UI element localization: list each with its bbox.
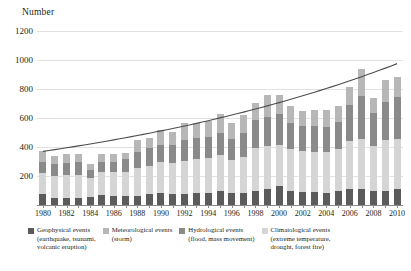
bar-segment	[98, 154, 105, 162]
x-tick	[220, 205, 221, 208]
x-tick	[338, 205, 339, 208]
legend-item-meteorological[interactable]: Meteorological events(storm)	[103, 226, 173, 243]
bar-segment	[146, 194, 153, 205]
bar-segment	[394, 139, 401, 189]
legend-label: Climatological events(extreme temperatur…	[271, 226, 331, 252]
x-tick-label: 1980	[35, 209, 51, 218]
bar-segment	[157, 130, 164, 145]
bar-segment	[252, 148, 259, 190]
bar-segment	[181, 161, 188, 194]
bar-segment	[346, 141, 353, 189]
bar-segment	[51, 156, 58, 165]
bar-segment	[276, 114, 283, 144]
bar-segment	[122, 159, 129, 172]
legend-item-hydrological[interactable]: Hydrological events(flood, mass movement…	[179, 226, 254, 243]
bar-segment	[122, 196, 129, 205]
bar	[75, 154, 82, 205]
x-tick	[196, 205, 197, 208]
bar-segment	[51, 176, 58, 198]
x-tick-label: 2010	[389, 209, 405, 218]
bar-segment	[169, 132, 176, 145]
bar-segment	[323, 127, 330, 152]
legend-label: Geophysical events(earthquake, tsunami,v…	[37, 226, 96, 252]
stacked-bar-chart: Number 12001000800600400200 198019821984…	[0, 0, 411, 271]
x-tick-label: 1986	[106, 209, 122, 218]
x-tick-label: 1994	[200, 209, 216, 218]
bar-segment	[240, 193, 247, 205]
bar-segment	[146, 148, 153, 165]
bar-segment	[75, 175, 82, 199]
x-tick-label: 1988	[129, 209, 145, 218]
legend-swatch-icon	[28, 228, 34, 234]
x-tick	[314, 205, 315, 208]
x-tick	[291, 205, 292, 208]
bar-segment	[87, 178, 94, 197]
x-tick	[43, 205, 44, 208]
bar-segment	[228, 139, 235, 160]
bar-segment	[134, 152, 141, 168]
x-tick	[161, 205, 162, 208]
bar-segment	[358, 69, 365, 95]
x-tick	[114, 205, 115, 208]
legend-item-geophysical[interactable]: Geophysical events(earthquake, tsunami,v…	[28, 226, 96, 252]
bar	[122, 153, 129, 205]
x-tick	[102, 205, 103, 208]
bar-segment	[346, 87, 353, 105]
bar-segment	[39, 194, 46, 205]
legend-label: Hydrological events(flood, mass movement…	[188, 226, 254, 243]
x-axis: 1980198219841986198819901992199419961998…	[37, 205, 403, 223]
x-tick	[67, 205, 68, 208]
y-tick-label: 800	[3, 84, 33, 94]
bar-segment	[299, 126, 306, 151]
legend-sublabel: volcanic eruption)	[37, 243, 96, 252]
bar-segment	[287, 123, 294, 149]
bar	[335, 106, 342, 205]
bar-segment	[134, 140, 141, 152]
bar-segment	[39, 162, 46, 173]
bar-segment	[205, 158, 212, 193]
bar	[193, 123, 200, 205]
bar-segment	[370, 146, 377, 191]
bar-segment	[181, 194, 188, 205]
bar-segment	[39, 173, 46, 194]
bar-segment	[276, 145, 283, 186]
legend-item-climatological[interactable]: Climatological events(extreme temperatur…	[262, 226, 331, 252]
bar-segment	[323, 193, 330, 205]
x-tick	[373, 205, 374, 208]
bar-segment	[39, 151, 46, 163]
bar-segment	[205, 121, 212, 137]
x-tick	[149, 205, 150, 208]
x-tick	[326, 205, 327, 208]
x-tick	[397, 205, 398, 208]
bar-segment	[335, 191, 342, 205]
bar	[181, 123, 188, 205]
x-tick	[90, 205, 91, 208]
bar-segment	[134, 168, 141, 196]
x-tick	[303, 205, 304, 208]
bar-segment	[287, 106, 294, 123]
x-tick-label: 2000	[271, 209, 287, 218]
bar-segment	[87, 197, 94, 205]
bar	[252, 103, 259, 205]
bar-segment	[146, 138, 153, 148]
bar-segment	[299, 192, 306, 205]
bar-segment	[323, 110, 330, 127]
bar-segment	[394, 97, 401, 139]
x-tick-label: 1984	[82, 209, 98, 218]
bar-segment	[240, 133, 247, 157]
y-tick-label: 600	[3, 113, 33, 123]
x-tick	[279, 205, 280, 208]
bar-segment	[394, 77, 401, 97]
bar-segment	[264, 117, 271, 146]
bar-segment	[252, 103, 259, 120]
bar-segment	[193, 123, 200, 138]
bar-segment	[98, 195, 105, 205]
bar-segment	[252, 120, 259, 148]
bar-segment	[240, 157, 247, 193]
legend-sublabel: (flood, mass movement)	[188, 235, 254, 244]
bar	[98, 154, 105, 205]
x-tick-label: 1996	[224, 209, 240, 218]
chart-legend: Geophysical events(earthquake, tsunami,v…	[28, 226, 406, 252]
bar-segment	[110, 196, 117, 205]
bar-segment	[240, 115, 247, 133]
